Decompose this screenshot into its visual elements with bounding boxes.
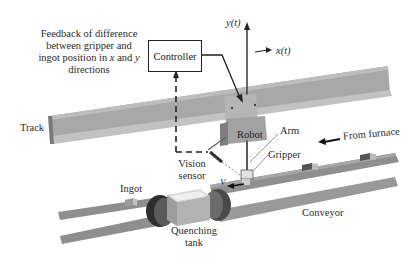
- x-axis-label: x(t): [276, 45, 291, 57]
- quenching-tank: [167, 189, 210, 226]
- from-furnace-arrow: [318, 138, 340, 145]
- ingot-label: Ingot: [120, 183, 142, 195]
- velocity-label: V: [220, 176, 226, 188]
- feedback-line-4: directions: [30, 64, 148, 76]
- x-axis-arrow: [255, 47, 272, 53]
- feedback-line-2: between gripper and: [30, 40, 148, 52]
- y-axis-label: y(t): [226, 17, 241, 29]
- track-label: Track: [20, 122, 44, 134]
- diagram-canvas: Feedback of difference between gripper a…: [0, 0, 418, 258]
- feedback-line-1: Feedback of difference: [30, 28, 148, 40]
- feedback-description: Feedback of difference between gripper a…: [30, 28, 148, 76]
- gripper-label: Gripper: [268, 149, 301, 161]
- arm-label: Arm: [280, 125, 299, 137]
- feedback-line-3: ingot position in x and y: [30, 52, 148, 64]
- vision-sensor-label: Vision sensor: [172, 158, 212, 182]
- controller-label: Controller: [153, 51, 196, 62]
- conveyor-left: [58, 195, 174, 244]
- quenching-tank-label: Quenching tank: [168, 225, 220, 249]
- controller-box: Controller: [148, 40, 202, 72]
- robot-label: Robot: [237, 129, 263, 140]
- conveyor-label: Conveyor: [302, 207, 343, 219]
